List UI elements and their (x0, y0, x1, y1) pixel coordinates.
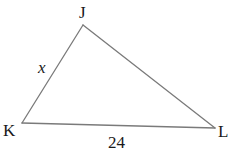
diagram-canvas: J K L x 24 (0, 0, 232, 150)
vertex-label-l: L (218, 122, 228, 141)
side-label-jk: x (37, 58, 46, 77)
side-jk (22, 25, 83, 123)
side-jl (83, 25, 215, 128)
side-kl (22, 123, 215, 128)
triangle-figure: J K L x 24 (0, 0, 232, 150)
vertex-label-j: J (79, 3, 86, 22)
vertex-label-k: K (3, 121, 16, 140)
side-label-kl: 24 (108, 133, 126, 150)
